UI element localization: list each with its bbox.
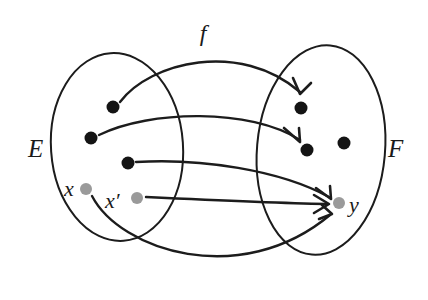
arrow-e2-to-f2-curve <box>99 116 300 140</box>
point-x <box>80 183 92 195</box>
point-label-x-prime: x′ <box>104 188 121 213</box>
arrow-e3-to-y-curve <box>136 161 329 197</box>
point-y <box>333 197 345 209</box>
point-label-x: x <box>63 176 74 201</box>
point-e3 <box>122 157 135 170</box>
point-f3 <box>338 137 351 150</box>
point-e1 <box>107 101 120 114</box>
point-f1 <box>295 102 308 115</box>
point-label-y: y <box>347 192 359 217</box>
map-label-f: f <box>200 20 210 46</box>
set-label-E: E <box>27 135 43 162</box>
arrow-x-to-y-curve <box>92 196 330 256</box>
point-f2 <box>301 144 314 157</box>
set-outlines <box>45 40 394 260</box>
diagram-canvas: f E F x x′ y <box>0 0 428 300</box>
point-x-prime <box>131 192 143 204</box>
arrow-x-to-y-head <box>319 205 332 219</box>
arrow-e2-to-f2-head <box>284 128 300 142</box>
arrow-e1-to-f1-head <box>293 78 311 94</box>
function-diagram-figure: f E F x x′ y <box>0 0 428 300</box>
arrow-e1-to-f1-curve <box>120 61 300 102</box>
point-e2 <box>85 132 98 145</box>
set-label-F: F <box>387 135 404 162</box>
set-ellipse-E <box>45 49 190 246</box>
